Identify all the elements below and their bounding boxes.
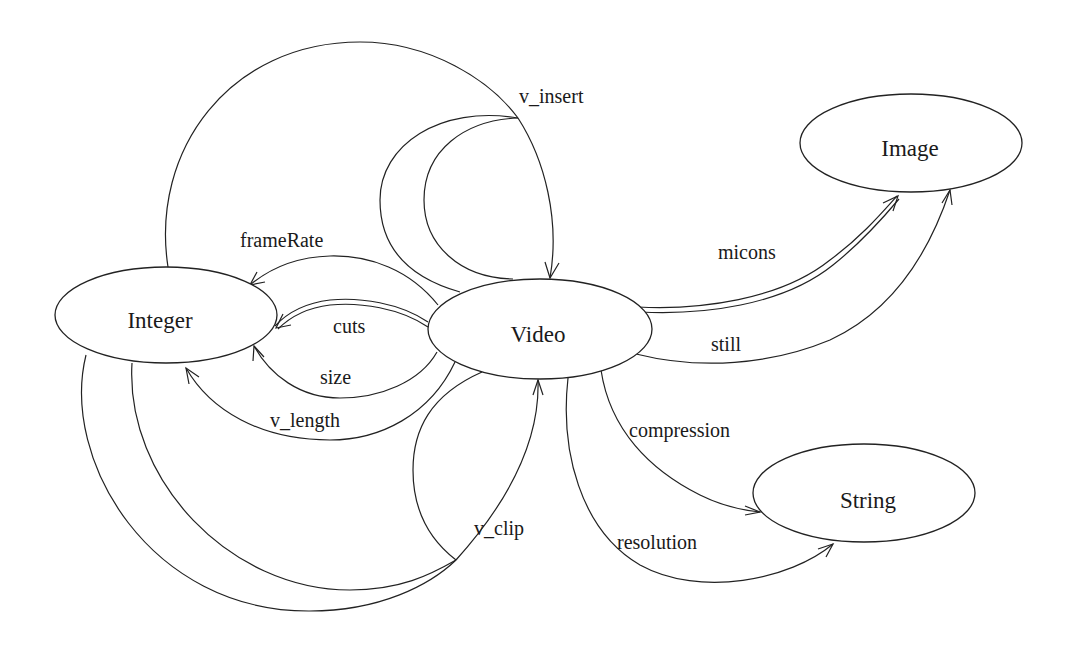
edge-v-insert-outer xyxy=(380,116,518,292)
edge-label-micons: micons xyxy=(718,242,776,262)
edge-label-v_insert: v_insert xyxy=(519,86,583,106)
edge-compression xyxy=(601,370,760,512)
node-image-label: Image xyxy=(881,137,938,160)
edge-label-compression: compression xyxy=(629,420,730,440)
diagram-canvas: Integer Video Image String frameRate cut… xyxy=(0,0,1070,645)
edge-still xyxy=(636,190,950,363)
edge-frameRate xyxy=(250,256,438,305)
edge-label-v_length: v_length xyxy=(270,410,340,430)
edge-v-insert-target xyxy=(518,118,553,278)
edge-label-cuts: cuts xyxy=(333,316,365,336)
node-integer-label: Integer xyxy=(127,309,192,332)
edge-label-resolution: resolution xyxy=(617,532,697,552)
edge-v-clip-from-video xyxy=(413,372,482,560)
edge-label-frameRate: frameRate xyxy=(240,230,323,250)
edge-label-still: still xyxy=(711,334,741,354)
node-string-label: String xyxy=(840,489,896,512)
edge-label-size: size xyxy=(320,367,351,387)
edge-v-clip-from-integer-inner xyxy=(132,363,456,590)
edge-v-insert-from-integer xyxy=(165,42,518,267)
arrowhead-cuts xyxy=(276,314,291,328)
edge-v-insert-inner xyxy=(424,118,518,279)
edge-label-v_clip: v_clip xyxy=(474,518,524,538)
node-video-label: Video xyxy=(511,323,566,346)
